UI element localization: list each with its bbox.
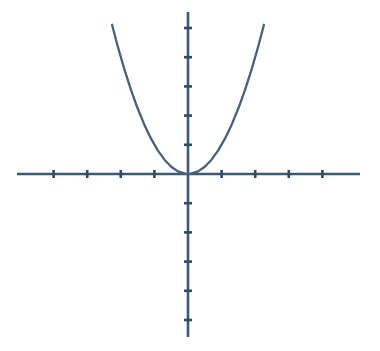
parabola-graph-figure — [0, 0, 380, 351]
coordinate-plane-svg — [0, 0, 380, 351]
